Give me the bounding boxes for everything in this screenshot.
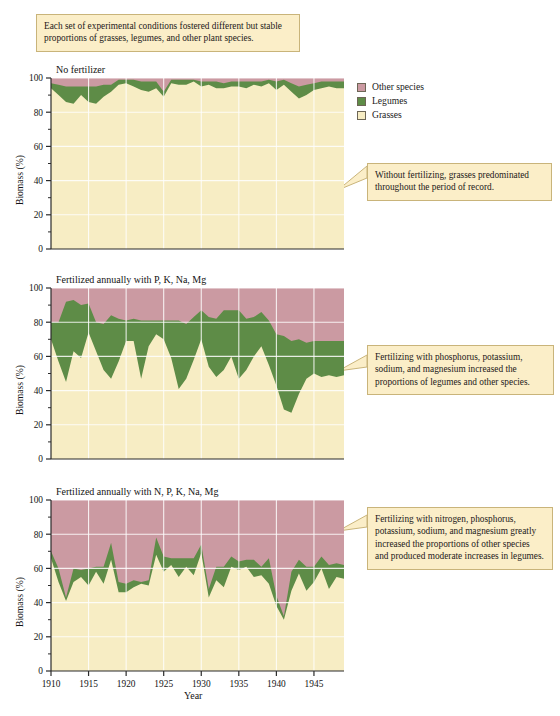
x-tick-label: 1935: [229, 679, 248, 689]
x-tick-label: 1940: [267, 679, 286, 689]
x-tick-label: 1925: [154, 679, 173, 689]
y-tick-label: 100: [29, 73, 43, 83]
area-series-grasses: [51, 81, 344, 249]
y-tick-label: 40: [34, 176, 44, 186]
y-tick-label: 20: [34, 632, 44, 642]
y-tick-label: 100: [29, 283, 43, 293]
panel-p-k-na-mg-svg: 020406080100: [0, 280, 560, 462]
y-tick-label: 0: [38, 666, 43, 676]
panel-n-p-k-na-mg-svg: 0204060801001910191519201925193019351940…: [0, 492, 560, 692]
panel-no-fertilizer-svg: 020406080100: [0, 70, 560, 252]
x-tick-label: 1945: [305, 679, 324, 689]
y-tick-label: 80: [34, 530, 44, 540]
plot-no-fertilizer: 020406080100: [0, 70, 560, 252]
x-axis-title: Year: [184, 690, 202, 701]
y-tick-label: 0: [38, 244, 43, 252]
y-tick-label: 40: [34, 598, 44, 608]
y-tick-label: 20: [34, 210, 44, 220]
y-tick-label: 80: [34, 108, 44, 118]
x-tick-label: 1910: [42, 679, 61, 689]
plot-p-k-na-mg: 020406080100: [0, 280, 560, 462]
figure-top-note-text: Each set of experimental conditions fost…: [44, 20, 292, 45]
y-tick-label: 80: [34, 318, 44, 328]
x-tick-label: 1915: [79, 679, 98, 689]
y-tick-label: 40: [34, 386, 44, 396]
x-tick-label: 1930: [192, 679, 211, 689]
plot-n-p-k-na-mg: 0204060801001910191519201925193019351940…: [0, 492, 560, 692]
x-tick-label: 1920: [117, 679, 136, 689]
figure-top-note: Each set of experimental conditions fost…: [36, 14, 300, 52]
y-tick-label: 100: [29, 495, 43, 505]
y-tick-label: 60: [34, 352, 44, 362]
y-tick-label: 0: [38, 454, 43, 462]
y-tick-label: 60: [34, 142, 44, 152]
figure-root: Each set of experimental conditions fost…: [0, 0, 560, 716]
y-tick-label: 60: [34, 564, 44, 574]
y-tick-label: 20: [34, 420, 44, 430]
